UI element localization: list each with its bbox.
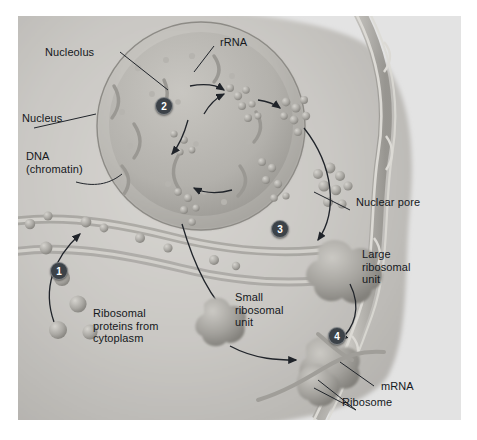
illustration-panel: Nucleolus rRNA Nucleus DNA (chromatin) N… [18,16,461,420]
cell-illustration [18,16,461,420]
label-dna-chromatin: DNA (chromatin) [26,150,83,175]
step-marker-1: 1 [50,262,68,280]
label-ribosome: Ribosome [342,396,392,409]
label-rrna: rRNA [220,36,247,49]
label-mrna: mRNA [381,380,414,393]
label-nuclear-pore: Nuclear pore [356,196,420,209]
step-marker-2: 2 [155,97,173,115]
step-marker-3: 3 [271,220,289,238]
step-marker-4: 4 [328,327,346,345]
label-small-ribosomal-unit: Small ribosomal unit [235,291,284,329]
label-ribosomal-proteins: Ribosomal proteins from cytoplasm [93,307,159,345]
label-nucleus: Nucleus [22,112,62,125]
label-large-ribosomal-unit: Large ribosomal unit [362,248,411,286]
label-nucleolus: Nucleolus [45,46,94,59]
figure-root: Nucleolus rRNA Nucleus DNA (chromatin) N… [0,0,477,440]
